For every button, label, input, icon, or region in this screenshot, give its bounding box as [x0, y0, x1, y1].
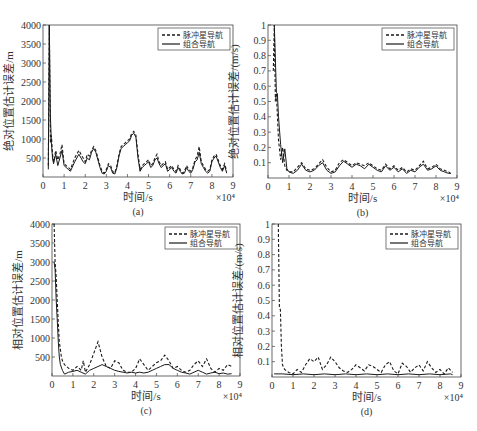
legend: 脉冲星导航组合导航	[382, 28, 454, 50]
x-multiplier: ×10⁴	[216, 192, 236, 203]
y-tick-label: 0.5	[254, 96, 267, 107]
y-tick-label: 500	[26, 153, 41, 164]
y-tick-label: 0.6	[254, 81, 267, 92]
legend-pulsar-label: 脉冲星导航	[183, 30, 223, 40]
subfigure-caption: (b)	[357, 207, 369, 219]
figure-canvas: 0123456789500100015002000250030003500400…	[0, 0, 477, 431]
x-tick-label: 1	[291, 380, 296, 391]
x-tick-label: 8	[209, 180, 214, 191]
x-tick-label: 9	[455, 181, 460, 192]
y-tick-label: 3500	[21, 39, 41, 50]
y-tick-label: 1	[261, 20, 266, 31]
y-tick-label: 4000	[30, 219, 50, 230]
x-tick-label: 7	[188, 180, 193, 191]
chart-panel-d: 01234567890.10.20.30.40.50.60.70.80.91×1…	[231, 219, 464, 419]
x-tick-label: 3	[112, 379, 117, 390]
x-tick-label: 8	[434, 181, 439, 192]
x-tick-label: 0	[266, 181, 271, 192]
x-tick-label: 5	[375, 380, 380, 391]
x-tick-label: 6	[396, 380, 401, 391]
subfigure-caption: (a)	[132, 206, 143, 218]
chart-panel-a: 0123456789500100015002000250030003500400…	[2, 20, 236, 219]
legend: 脉冲星导航组合导航	[158, 28, 230, 50]
x-tick-label: 9	[238, 379, 243, 390]
y-tick-label: 4000	[21, 20, 41, 31]
x-tick-label: 2	[83, 180, 88, 191]
y-tick-label: 500	[35, 352, 50, 363]
x-tick-label: 8	[217, 379, 222, 390]
y-axis-label: 相对位置估计误差/(m/s)	[231, 243, 245, 358]
x-tick-label: 5	[146, 180, 151, 191]
y-tick-label: 0.2	[258, 341, 271, 352]
y-tick-label: 3000	[21, 58, 41, 69]
x-multiplier: ×10⁴	[444, 392, 464, 403]
legend-integrated-label: 组合导航	[407, 39, 439, 49]
subfigure-caption: (d)	[361, 406, 373, 418]
x-tick-label: 4	[133, 379, 138, 390]
x-tick-label: 1	[287, 181, 292, 192]
y-tick-label: 1000	[21, 134, 41, 145]
y-axis-label: 相对位置估计误差/m	[11, 250, 24, 350]
x-tick-label: 4	[354, 380, 359, 391]
y-tick-label: 0.8	[258, 249, 271, 260]
y-tick-label: 0.7	[258, 264, 271, 275]
y-tick-label: 1500	[21, 115, 41, 126]
x-tick-label: 0	[50, 379, 55, 390]
legend: 脉冲星导航组合导航	[165, 227, 237, 249]
x-axis-label: 时间/s	[131, 390, 160, 402]
x-tick-label: 9	[459, 380, 464, 391]
y-tick-label: 0.8	[254, 50, 267, 61]
series-integrated-line	[274, 374, 453, 375]
y-tick-label: 0.3	[254, 127, 267, 138]
x-tick-label: 7	[196, 379, 201, 390]
legend: 脉冲星导航组合导航	[386, 227, 458, 249]
x-tick-label: 6	[167, 180, 172, 191]
y-tick-label: 2500	[21, 77, 41, 88]
x-multiplier: ×10⁴	[440, 193, 460, 204]
x-tick-label: 7	[417, 380, 422, 391]
x-tick-label: 4	[350, 181, 355, 192]
y-tick-label: 0.4	[258, 310, 271, 321]
x-tick-label: 1	[70, 379, 75, 390]
x-tick-label: 4	[125, 180, 130, 191]
subfigure-caption: (c)	[140, 405, 151, 417]
x-tick-label: 7	[413, 181, 418, 192]
legend-pulsar-label: 脉冲星导航	[407, 30, 447, 40]
x-tick-label: 0	[41, 180, 46, 191]
x-axis-label: 时间/s	[348, 192, 377, 204]
x-tick-label: 6	[175, 379, 180, 390]
x-tick-label: 8	[438, 380, 443, 391]
y-tick-label: 2000	[21, 96, 41, 107]
y-tick-label: 0.6	[258, 280, 271, 291]
y-tick-label: 0.7	[254, 65, 267, 76]
y-tick-label: 0.1	[254, 157, 267, 168]
x-tick-label: 3	[104, 180, 109, 191]
x-tick-label: 2	[308, 181, 313, 192]
x-axis-label: 时间/s	[123, 191, 152, 203]
x-tick-label: 0	[270, 380, 275, 391]
y-tick-label: 0.9	[258, 234, 271, 245]
x-tick-label: 5	[154, 379, 159, 390]
y-tick-label: 0.4	[254, 111, 267, 122]
x-axis-label: 时间/s	[352, 391, 381, 403]
y-tick-label: 1	[265, 219, 270, 230]
x-tick-label: 2	[312, 380, 317, 391]
x-tick-label: 1	[62, 180, 67, 191]
y-tick-label: 2000	[30, 295, 50, 306]
y-tick-label: 0.5	[258, 295, 271, 306]
y-axis-label: 绝对位置估计误差/(m/s)	[227, 44, 241, 159]
y-tick-label: 1500	[30, 314, 50, 325]
y-tick-label: 0.9	[254, 35, 267, 46]
x-tick-label: 9	[231, 180, 236, 191]
y-tick-label: 2500	[30, 276, 50, 287]
x-tick-label: 3	[329, 181, 334, 192]
y-tick-label: 0.1	[258, 356, 271, 367]
y-tick-label: 0.3	[258, 326, 271, 337]
x-tick-label: 5	[371, 181, 376, 192]
chart-panel-b: 01234567890.10.20.30.40.50.60.70.80.91×1…	[227, 20, 460, 220]
chart-panel-c: 0123456789500100015002000250030003500400…	[11, 219, 243, 418]
series-integrated-line	[54, 262, 232, 374]
x-tick-label: 2	[91, 379, 96, 390]
y-tick-label: 0.2	[254, 142, 267, 153]
y-axis-label: 绝对位置估计误差/m	[2, 51, 15, 151]
